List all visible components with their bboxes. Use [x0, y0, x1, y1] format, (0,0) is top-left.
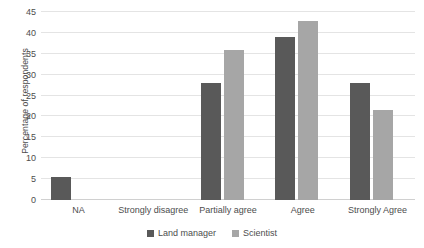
x-axis-tick-label: NA [72, 205, 85, 215]
bar-group [41, 12, 116, 200]
plot-area [41, 12, 415, 200]
bar-group [340, 12, 415, 200]
y-axis-tick-label: 30 [0, 70, 36, 79]
y-axis-tick-label: 10 [0, 154, 36, 163]
bar [201, 83, 221, 200]
bar [350, 83, 370, 200]
bar-group [265, 12, 340, 200]
x-axis-tick-label: Strongly Agree [348, 205, 407, 215]
y-axis-tick-label: 35 [0, 49, 36, 58]
bar-group [116, 12, 191, 200]
bar [275, 37, 295, 200]
x-axis-tick-label: Strongly disagree [118, 205, 188, 215]
x-axis-tick-labels: NAStrongly disagreePartially agreeAgreeS… [41, 205, 415, 221]
y-axis-tick-label: 45 [0, 8, 36, 17]
bar [373, 110, 393, 200]
chart-legend: Land managerScientist [0, 228, 424, 238]
bar [224, 50, 244, 200]
y-axis-tick-label: 40 [0, 28, 36, 37]
y-axis-tick-label: 25 [0, 91, 36, 100]
y-axis-tick-labels: 051015202530354045 [0, 12, 36, 200]
x-axis-tick-label: Agree [291, 205, 315, 215]
legend-item-label: Land manager [158, 228, 216, 238]
y-axis-tick-label: 0 [0, 196, 36, 205]
legend-item[interactable]: Land manager [147, 228, 216, 238]
x-axis-tick-label: Partially agree [199, 205, 257, 215]
square-swatch-icon [232, 230, 239, 237]
y-axis-tick-label: 15 [0, 133, 36, 142]
legend-item-label: Scientist [243, 228, 277, 238]
bar [51, 177, 71, 200]
bar [298, 21, 318, 200]
y-axis-tick-label: 20 [0, 112, 36, 121]
y-axis-tick-label: 5 [0, 175, 36, 184]
legend-item[interactable]: Scientist [232, 228, 277, 238]
bar-chart: Percentage of respondents 05101520253035… [0, 0, 424, 248]
bar-group [191, 12, 266, 200]
square-swatch-icon [147, 230, 154, 237]
